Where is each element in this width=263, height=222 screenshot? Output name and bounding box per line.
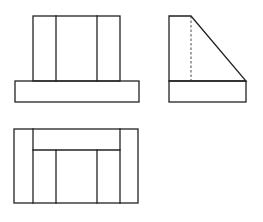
- upper-block: [33, 16, 120, 81]
- base-block: [169, 81, 246, 102]
- sloped-block: [169, 16, 246, 81]
- side-view: [169, 16, 246, 102]
- base-block: [15, 81, 139, 102]
- orthographic-drawing: [0, 0, 263, 222]
- top-view: [14, 129, 138, 203]
- front-view: [15, 16, 139, 102]
